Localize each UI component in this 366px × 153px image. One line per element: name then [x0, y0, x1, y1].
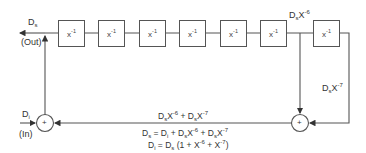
right-summer-plus: + [297, 118, 302, 128]
tap7-label: DsX-7 [322, 80, 343, 96]
output-label: Ds [28, 17, 38, 30]
delay-box-1: x-1 [58, 20, 85, 47]
delay-box-2: x-1 [98, 20, 125, 47]
equation-output: Ds = Di + DsX-6 + DsX-7 [142, 127, 228, 139]
output-note: (Out) [21, 37, 42, 47]
delay-box-6: x-1 [260, 20, 287, 47]
input-note: (In) [19, 129, 33, 139]
tap6-label: DsX-6 [289, 7, 310, 23]
delay-box-4: x-1 [179, 20, 206, 47]
delay-box-5: x-1 [220, 20, 247, 47]
input-label: Di [22, 109, 30, 122]
equation-input: Di = Ds (1 + X-6 + X-7) [148, 139, 228, 151]
delay-box-3: x-1 [139, 20, 166, 47]
left-summer-plus: + [42, 118, 47, 128]
delay-box-7: x-1 [313, 20, 340, 47]
feedback-sum-label: DsX-6 + DsX-7 [158, 110, 208, 122]
